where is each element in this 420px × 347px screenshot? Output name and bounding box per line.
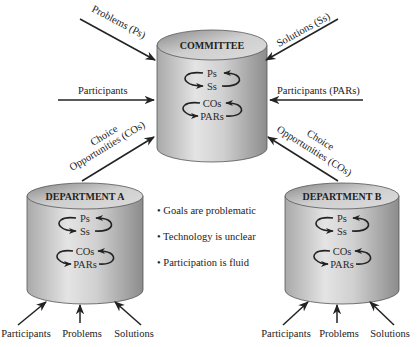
department-b-ps: Ps	[337, 213, 347, 224]
committee-ss: Ss	[207, 81, 217, 92]
dept-b-input-solutions: Solutions	[370, 328, 410, 339]
label-solutions-ss: Solutions (Ss)	[275, 10, 333, 49]
committee-cos: COs	[203, 98, 222, 109]
dept-a-input-participants: Participants	[1, 328, 51, 339]
characteristics-list: • Goals are problematic • Technology is …	[157, 205, 256, 268]
department-b-cylinder: DEPARTMENT B Ps Ss COs PARs	[285, 183, 399, 304]
committee-ps: Ps	[207, 68, 217, 79]
dept-b-input-problems: Problems	[319, 328, 359, 339]
committee-pars: PARs	[200, 111, 224, 122]
bullet-goals: • Goals are problematic	[157, 205, 256, 216]
department-a-cylinder: DEPARTMENT A Ps Ss COs PARs	[27, 183, 143, 304]
label-problems-ps: Problems (Ps)	[90, 3, 148, 42]
department-a-ss: Ss	[80, 226, 90, 237]
department-a-inputs: Participants Problems Solutions	[1, 302, 154, 339]
department-b-ss: Ss	[337, 226, 347, 237]
committee-title: COMMITTEE	[180, 40, 245, 51]
label-participants: Participants	[78, 85, 128, 96]
dept-a-input-problems: Problems	[62, 328, 102, 339]
committee-cylinder: COMMITTEE Ps Ss COs PARs	[157, 30, 267, 162]
department-b-title: DEPARTMENT B	[302, 191, 381, 202]
bullet-participation: • Participation is fluid	[157, 257, 250, 268]
garbage-can-model-diagram: COMMITTEE Ps Ss COs PARs Problems (Ps) S…	[0, 0, 420, 347]
dept-a-input-solutions: Solutions	[114, 328, 154, 339]
arrow-participants-pars-to-committee: Participants (PARs)	[270, 85, 363, 100]
arrow-dept-b-choice-opportunities: Choice Opportunities (COs)	[268, 123, 354, 181]
department-b-cos: COs	[333, 246, 352, 257]
department-a-pars: PARs	[73, 259, 97, 270]
label-participants-pars: Participants (PARs)	[277, 85, 360, 97]
dept-b-input-participants: Participants	[261, 328, 311, 339]
bullet-technology: • Technology is unclear	[157, 231, 256, 242]
arrow-dept-a-choice-opportunities: Choice Opportunities (COs)	[67, 119, 154, 181]
arrow-participants-to-committee: Participants	[58, 85, 154, 100]
department-b-inputs: Participants Problems Solutions	[261, 302, 410, 339]
arrow-problems-to-committee: Problems (Ps)	[80, 3, 155, 60]
arrow-solutions-to-committee: Solutions (Ss)	[266, 10, 338, 60]
department-b-pars: PARs	[330, 259, 354, 270]
department-a-title: DEPARTMENT A	[45, 191, 125, 202]
department-a-cos: COs	[76, 246, 95, 257]
department-a-ps: Ps	[80, 213, 90, 224]
